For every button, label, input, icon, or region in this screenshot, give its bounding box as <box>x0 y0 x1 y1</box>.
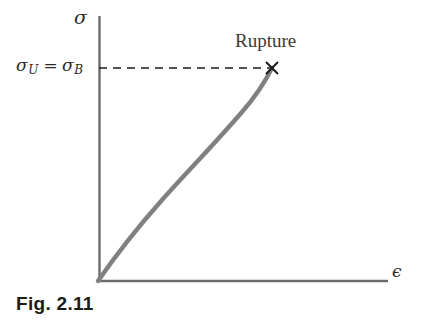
rupture-label: Rupture <box>235 30 296 52</box>
ultimate-stress-equals: = <box>39 55 62 75</box>
ultimate-stress-label: σU=σB <box>16 55 83 77</box>
ultimate-stress-subscript-2: B <box>74 63 83 77</box>
ultimate-stress-subscript-1: U <box>28 63 39 77</box>
stress-strain-curve <box>98 68 272 281</box>
plot-canvas <box>0 0 422 327</box>
figure-caption: Fig. 2.11 <box>16 293 94 315</box>
x-axis-label: ϵ <box>392 261 402 281</box>
ultimate-stress-symbol-1: σ <box>16 55 28 75</box>
stress-strain-figure: σ ϵ σU=σB Rupture Fig. 2.11 <box>0 0 422 327</box>
y-axis-label: σ <box>74 6 87 28</box>
ultimate-stress-symbol-2: σ <box>62 55 74 75</box>
